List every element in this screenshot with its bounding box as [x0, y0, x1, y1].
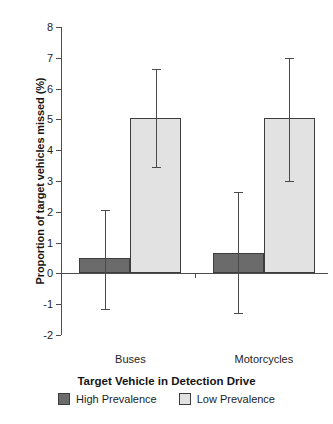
y-tick: [56, 181, 61, 182]
error-bar-cap-upper: [152, 69, 161, 70]
legend-swatch-high-prevalence: [58, 393, 70, 405]
x-tick: [195, 273, 196, 278]
y-tick: [56, 150, 61, 151]
y-tick: [56, 335, 61, 336]
x-axis-title: Target Vehicle in Detection Drive: [0, 375, 333, 387]
y-axis-line: [61, 27, 62, 335]
legend-label-low-prevalence: Low Prevalence: [197, 393, 275, 405]
legend-label-high-prevalence: High Prevalence: [76, 393, 157, 405]
y-tick-label: 7: [47, 52, 53, 64]
y-tick-label: 5: [47, 113, 53, 125]
legend: High Prevalence Low Prevalence: [0, 393, 333, 405]
error-bar-cap-lower: [101, 309, 110, 310]
plot-area: 876543210-1-2 BusesMotorcycles: [61, 27, 328, 335]
legend-item: High Prevalence: [58, 393, 157, 405]
y-tick: [56, 89, 61, 90]
legend-swatch-low-prevalence: [179, 393, 191, 405]
error-bar-line: [156, 69, 157, 168]
error-bar-line: [289, 58, 290, 181]
y-tick-label: 4: [47, 144, 53, 156]
y-tick: [56, 304, 61, 305]
y-tick-label: 2: [47, 206, 53, 218]
y-tick-label: 8: [47, 21, 53, 33]
error-bar-cap-upper: [285, 58, 294, 59]
legend-item: Low Prevalence: [179, 393, 275, 405]
figure: Proportion of target vehicles missed (%)…: [0, 0, 333, 424]
y-tick: [56, 212, 61, 213]
error-bar-cap-upper: [234, 192, 243, 193]
category-label: Motorcycles: [235, 353, 294, 365]
y-tick-label: 1: [47, 237, 53, 249]
error-bar-cap-lower: [285, 181, 294, 182]
y-tick: [56, 243, 61, 244]
category-label: Buses: [115, 353, 146, 365]
y-tick-label: -1: [43, 298, 53, 310]
error-bar-cap-upper: [101, 210, 110, 211]
error-bar-cap-lower: [152, 167, 161, 168]
y-tick-label: 0: [47, 267, 53, 279]
y-tick-label: -2: [43, 329, 53, 341]
figure-title: [0, 0, 333, 9]
y-axis-title: Proportion of target vehicles missed (%): [34, 31, 46, 331]
y-tick: [56, 27, 61, 28]
y-tick: [56, 119, 61, 120]
y-tick-label: 3: [47, 175, 53, 187]
y-tick: [56, 58, 61, 59]
error-bar-line: [238, 192, 239, 314]
error-bar-cap-lower: [234, 313, 243, 314]
y-tick-label: 6: [47, 83, 53, 95]
error-bar-line: [105, 210, 106, 309]
